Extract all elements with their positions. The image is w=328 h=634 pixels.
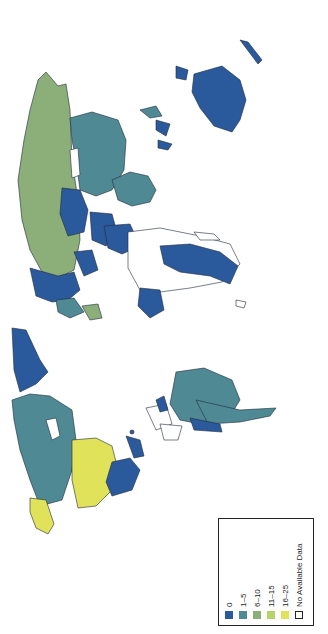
legend-item-no-data: No Available Data [293,523,305,619]
legend-item-6-10: 6–10 [251,523,263,619]
region-japan [240,40,262,64]
island-caribbean [130,430,134,434]
legend-swatch [281,611,289,619]
region-greenland [12,328,48,392]
legend-label: No Available Data [295,544,304,607]
legend-label: 6–10 [253,589,262,607]
legend-label: 11–15 [267,585,276,607]
region-europe-west [56,298,84,318]
legend-swatch [225,611,233,619]
region-indonesia [140,106,162,118]
legend-swatch [253,611,261,619]
legend-swatch [267,611,275,619]
region-philippines [156,120,170,136]
region-peru [160,424,182,440]
region-balkans [74,250,98,276]
legend-item-0: 0 [223,523,235,619]
region-central-america [126,436,144,458]
region-russia [18,72,80,278]
region-australia [192,66,246,132]
legend-label: 1–5 [239,594,248,607]
legend-item-16-25: 16–25 [279,523,291,619]
region-png [158,140,172,150]
legend-item-1-5: 1–5 [237,523,249,619]
region-china [112,172,156,206]
region-mongolia [70,148,80,178]
legend-item-11-15: 11–15 [265,523,277,619]
region-se-asia [176,66,188,80]
legend-swatch [295,611,303,619]
region-nz [236,300,246,308]
legend-swatch [239,611,247,619]
map-legend: 0 1–5 6–10 11–15 16–25 No Available Data [218,518,314,626]
region-iberia [82,304,102,320]
region-canada [12,394,76,506]
legend-label: 0 [225,603,234,607]
region-africa-south [138,288,164,318]
legend-items: 0 1–5 6–10 11–15 16–25 No Available Data [223,523,307,619]
legend-label: 16–25 [281,585,290,607]
